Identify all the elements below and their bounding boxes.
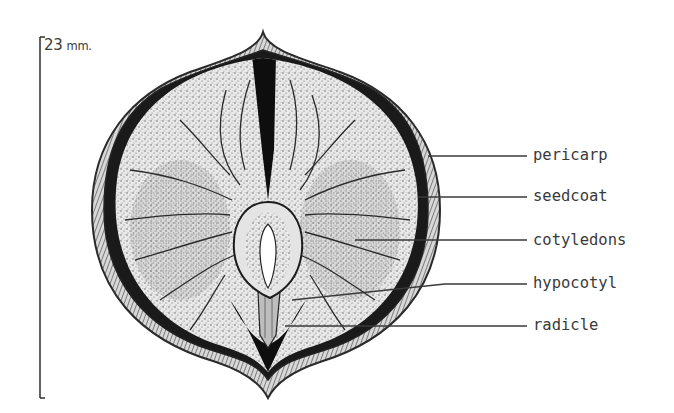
scale-value: 23 [44,36,63,54]
label-seedcoat: seedcoat [533,187,608,205]
scale-unit: mm. [67,39,92,53]
scale-label: 23mm. [44,36,92,54]
label-hypocotyl: hypocotyl [533,274,617,292]
label-cotyledons: cotyledons [533,231,626,249]
label-pericarp: pericarp [533,146,608,164]
seed-diagram: 23mm. pericarp seedcoat cotyledons hypoc… [0,0,674,413]
scale-bar [40,37,45,398]
seed-cross-section-illustration [0,0,674,413]
label-radicle: radicle [533,316,598,334]
